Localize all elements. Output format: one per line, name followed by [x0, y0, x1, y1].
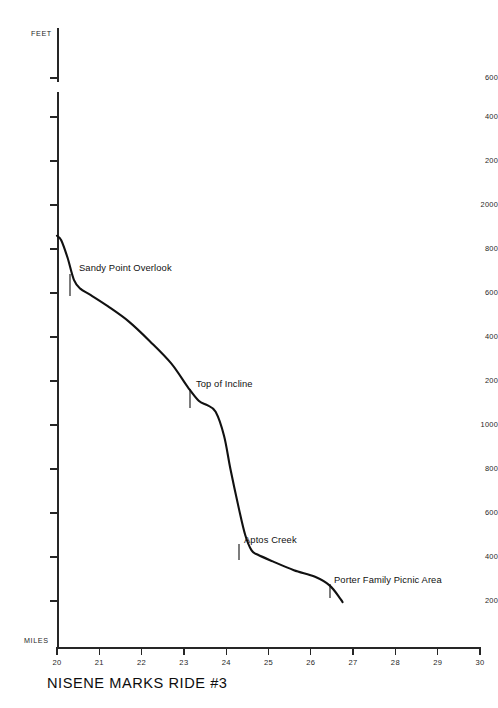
x-axis-tick-label: 27: [338, 659, 368, 667]
annotation-label: Sandy Point Overlook: [79, 263, 172, 272]
y-axis-tick: [50, 292, 59, 293]
x-axis-tick: [226, 647, 227, 655]
x-axis-tick: [352, 647, 353, 655]
y-axis-tick-label: 600: [452, 509, 498, 516]
elevation-curve: [57, 236, 343, 602]
y-axis-tick-label: 400: [452, 333, 498, 340]
x-axis-unit-label: MILES: [24, 636, 49, 645]
x-axis-tick: [56, 647, 57, 655]
y-axis-tick: [50, 204, 59, 205]
x-axis-tick: [141, 647, 142, 655]
annotation-label: Aptos Creek: [244, 535, 297, 544]
y-axis-tick: [50, 512, 59, 513]
x-axis-tick-label: 23: [169, 659, 199, 667]
x-axis-tick: [268, 647, 269, 655]
x-axis-tick: [437, 647, 438, 655]
chart-title: NISENE MARKS RIDE #3: [47, 675, 228, 691]
x-axis-tick-label: 29: [423, 659, 453, 667]
y-axis-tick: [50, 424, 59, 425]
y-axis-tick-label: 200: [452, 597, 498, 604]
x-axis-tick: [99, 647, 100, 655]
x-axis-tick: [479, 647, 480, 655]
x-axis-tick: [395, 647, 396, 655]
y-axis-tick: [50, 77, 59, 78]
y-axis-tick-label: 600: [452, 289, 498, 296]
y-axis-tick: [50, 600, 59, 601]
y-axis-tick-label: 600: [452, 74, 498, 81]
y-axis-tick-label: 800: [452, 465, 498, 472]
y-axis-tick: [50, 380, 59, 381]
y-axis-tick-label: 400: [452, 553, 498, 560]
x-axis-tick: [183, 647, 184, 655]
y-axis-upper-segment: [57, 28, 59, 82]
profile-plot: [0, 0, 498, 708]
y-axis-tick-label: 800: [452, 245, 498, 252]
x-axis-tick-label: 24: [211, 659, 241, 667]
x-axis-tick-label: 21: [84, 659, 114, 667]
x-axis-tick-label: 28: [380, 659, 410, 667]
y-axis-tick: [50, 160, 59, 161]
y-axis-tick-label: 200: [452, 157, 498, 164]
y-axis-tick-label: 1000: [452, 421, 498, 428]
y-axis-tick: [50, 248, 59, 249]
annotation-label: Porter Family Picnic Area: [334, 575, 442, 584]
elevation-profile-page: FEET MILES 60040020020008006004002001000…: [0, 0, 498, 708]
x-axis-tick-label: 20: [42, 659, 72, 667]
y-axis-tick: [50, 336, 59, 337]
x-axis-tick-label: 26: [296, 659, 326, 667]
annotation-label: Top of Incline: [196, 379, 253, 388]
x-axis-tick-label: 22: [127, 659, 157, 667]
y-axis-tick: [50, 116, 59, 117]
y-axis-tick-label: 400: [452, 113, 498, 120]
y-axis-tick-label: 2000: [452, 201, 498, 208]
y-axis-lower-segment: [57, 92, 59, 648]
annotation-leader-lines: [70, 274, 330, 598]
y-axis-tick: [50, 468, 59, 469]
x-axis-tick: [310, 647, 311, 655]
y-axis-tick-label: 200: [452, 377, 498, 384]
x-axis-tick-label: 30: [465, 659, 495, 667]
y-axis-tick: [50, 556, 59, 557]
x-axis-tick-label: 25: [254, 659, 284, 667]
y-axis-unit-label: FEET: [31, 29, 52, 38]
